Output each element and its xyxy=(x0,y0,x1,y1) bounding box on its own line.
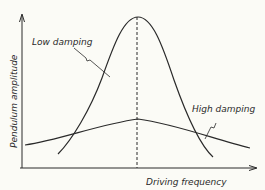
high-damping-label: High damping xyxy=(192,104,255,114)
x-axis-label: Driving frequency xyxy=(146,177,227,187)
low-damping-label: Low damping xyxy=(32,37,93,47)
diagram-canvas: Low damping High damping Driving frequen… xyxy=(0,0,265,190)
resonance-diagram: Low damping High damping Driving frequen… xyxy=(0,0,265,190)
y-axis-label: Pendulum amplitude xyxy=(9,54,19,148)
low-damping-leader xyxy=(74,48,110,77)
